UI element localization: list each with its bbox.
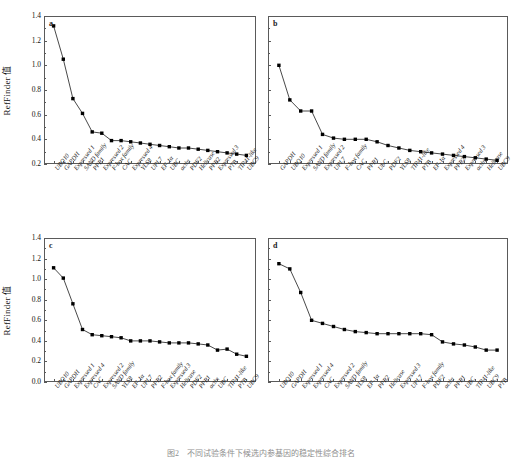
series-line — [279, 264, 497, 350]
data-point — [452, 342, 455, 345]
data-point — [463, 343, 466, 346]
data-point — [321, 322, 324, 325]
panel-letter-a: a — [49, 19, 53, 28]
panel-letter-c: c — [49, 241, 53, 250]
data-point — [310, 319, 313, 322]
data-point — [495, 348, 498, 351]
data-point — [299, 291, 302, 294]
data-point — [397, 332, 400, 335]
data-point — [343, 328, 346, 331]
panel-letter-b: b — [273, 19, 277, 28]
data-point — [375, 332, 378, 335]
data-point — [474, 345, 477, 348]
data-point — [386, 332, 389, 335]
data-point — [288, 267, 291, 270]
data-point — [430, 333, 433, 336]
data-point — [332, 325, 335, 328]
data-point — [419, 332, 422, 335]
data-point — [485, 348, 488, 351]
data-point — [354, 330, 357, 333]
data-point — [441, 340, 444, 343]
data-point — [408, 332, 411, 335]
panel-letter-d: d — [273, 241, 277, 250]
data-point — [365, 331, 368, 334]
data-point — [277, 262, 280, 265]
figure-caption: 图2 不同试验条件下候选内参基因的稳定性综合排名 — [0, 447, 522, 458]
